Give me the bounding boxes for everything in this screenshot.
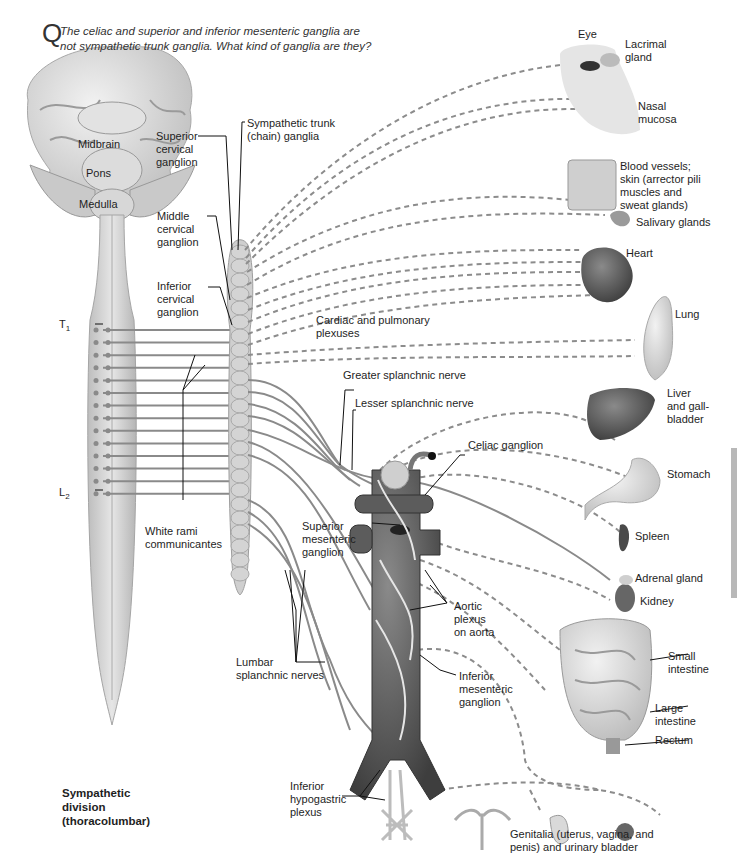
label-large-intestine: Large intestine xyxy=(655,702,696,728)
label-lung: Lung xyxy=(675,308,699,321)
label-midbrain: Midbrain xyxy=(78,138,120,151)
label-l2: L2 xyxy=(59,486,70,503)
label-rectum: Rectum xyxy=(655,734,693,747)
label-greater-splanchnic-nerve: Greater splanchnic nerve xyxy=(343,369,466,382)
label-celiac-ganglion: Celiac ganglion xyxy=(468,439,543,452)
label-liver-gallbladder: Liver and gall- bladder xyxy=(667,387,709,426)
label-heart: Heart xyxy=(626,247,653,260)
label-white-rami: White rami communicantes xyxy=(145,525,222,551)
sympathetic-trunk xyxy=(227,240,253,595)
label-nasal-mucosa: Nasal mucosa xyxy=(638,100,677,126)
label-inferior-hypogastric-plexus: Inferior hypogastric plexus xyxy=(290,780,346,819)
abdominal-aorta xyxy=(350,452,445,800)
division-title: Sympathetic division (thoracolumbar) xyxy=(62,786,150,828)
label-salivary-glands: Salivary glands xyxy=(636,216,711,229)
label-blood-vessels-skin: Blood vessels; skin (arrector pili muscl… xyxy=(620,160,701,212)
label-inferior-mesenteric-ganglion: Inferior mesenteric ganglion xyxy=(459,670,513,709)
label-pons: Pons xyxy=(86,167,111,180)
label-adrenal-gland: Adrenal gland xyxy=(635,572,703,585)
label-middle-cervical-ganglion: Middle cervical ganglion xyxy=(157,210,199,249)
question-text: The celiac and superior and inferior mes… xyxy=(60,24,371,54)
label-spleen: Spleen xyxy=(635,530,669,543)
label-genitalia-bladder: Genitalia (uterus, vagina, and penis) an… xyxy=(510,828,654,854)
page-edge-tab xyxy=(731,448,737,598)
label-medulla: Medulla xyxy=(79,198,118,211)
label-stomach: Stomach xyxy=(667,468,710,481)
label-sympathetic-trunk-ganglia: Sympathetic trunk (chain) ganglia xyxy=(247,117,335,143)
label-cardiac-pulmonary-plexuses: Cardiac and pulmonary plexuses xyxy=(316,314,430,340)
label-lumbar-splanchnic-nerves: Lumbar splanchnic nerves xyxy=(236,656,324,682)
label-aortic-plexus: Aortic plexus on aorta xyxy=(454,600,494,639)
label-eye: Eye xyxy=(578,28,597,41)
label-kidney: Kidney xyxy=(640,595,674,608)
label-inferior-cervical-ganglion: Inferior cervical ganglion xyxy=(157,280,199,319)
label-small-intestine: Small intestine xyxy=(668,650,709,676)
label-lacrimal-gland: Lacrimal gland xyxy=(625,38,667,64)
hypogastric-plexus xyxy=(382,770,412,840)
label-superior-mesenteric-ganglion: Superior mesenteric ganglion xyxy=(302,520,356,559)
label-superior-cervical-ganglion: Superior cervical ganglion xyxy=(156,130,198,169)
label-t1: T1 xyxy=(59,318,70,335)
splanchnic-nerves xyxy=(248,380,610,740)
label-lesser-splanchnic-nerve: Lesser splanchnic nerve xyxy=(355,397,474,410)
